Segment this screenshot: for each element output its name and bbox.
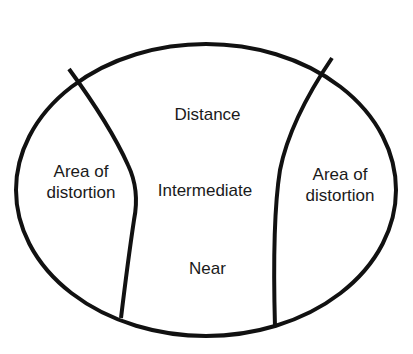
left-distortion-line1: Area of [36, 161, 126, 182]
near-label: Near [175, 258, 240, 279]
right-distortion-line2: distortion [295, 185, 385, 206]
distance-label: Distance [160, 104, 255, 125]
right-distortion-line1: Area of [295, 164, 385, 185]
left-distortion-label: Area of distortion [36, 161, 126, 203]
intermediate-label: Intermediate [148, 180, 262, 201]
left-distortion-line2: distortion [36, 182, 126, 203]
right-distortion-label: Area of distortion [295, 164, 385, 206]
